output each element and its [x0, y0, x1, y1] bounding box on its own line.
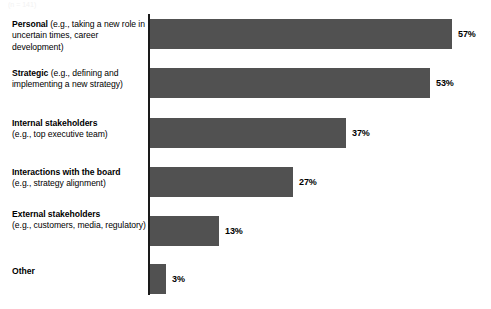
bar-external-stakeholders — [150, 216, 219, 246]
bar-value-label: 37% — [352, 129, 370, 138]
bar-other — [150, 264, 166, 294]
category-label: Interactions with the board(e.g., strate… — [12, 167, 146, 190]
bar-value-label: 27% — [299, 178, 317, 187]
plot-area: Personal (e.g., taking a new role in unc… — [0, 0, 491, 309]
category-label-detail: (e.g., strategy alignment) — [12, 178, 106, 188]
category-label: Other — [12, 266, 146, 277]
category-label-lead: Interactions with the board — [12, 167, 120, 177]
bar-interactions-with-board — [150, 167, 293, 197]
bar-value-label: 57% — [458, 30, 476, 39]
value-axis-line — [148, 14, 150, 295]
bar-value-label: 53% — [436, 79, 454, 88]
category-label-lead: External stakeholders — [12, 209, 100, 219]
category-label-detail: (e.g., customers, media, regulatory) — [12, 220, 146, 230]
category-label-lead: Strategic — [12, 68, 48, 78]
category-label: External stakeholders(e.g., customers, m… — [12, 209, 146, 232]
category-label-lead: Personal — [12, 19, 48, 29]
category-label-detail: (e.g., top executive team) — [12, 129, 108, 139]
bar-personal — [150, 19, 452, 49]
category-label-lead: Internal stakeholders — [12, 118, 97, 128]
bar-value-label: 13% — [225, 227, 243, 236]
category-label-lead: Other — [12, 266, 35, 276]
bar-value-label: 3% — [172, 275, 185, 284]
horizontal-bar-chart: (n = 141) Personal (e.g., taking a new r… — [0, 0, 491, 309]
bar-internal-stakeholders — [150, 118, 346, 148]
category-label: Internal stakeholders(e.g., top executiv… — [12, 118, 146, 141]
category-label: Personal (e.g., taking a new role in unc… — [12, 19, 146, 53]
bar-strategic — [150, 68, 430, 98]
category-label: Strategic (e.g., defining and implementi… — [12, 68, 146, 91]
